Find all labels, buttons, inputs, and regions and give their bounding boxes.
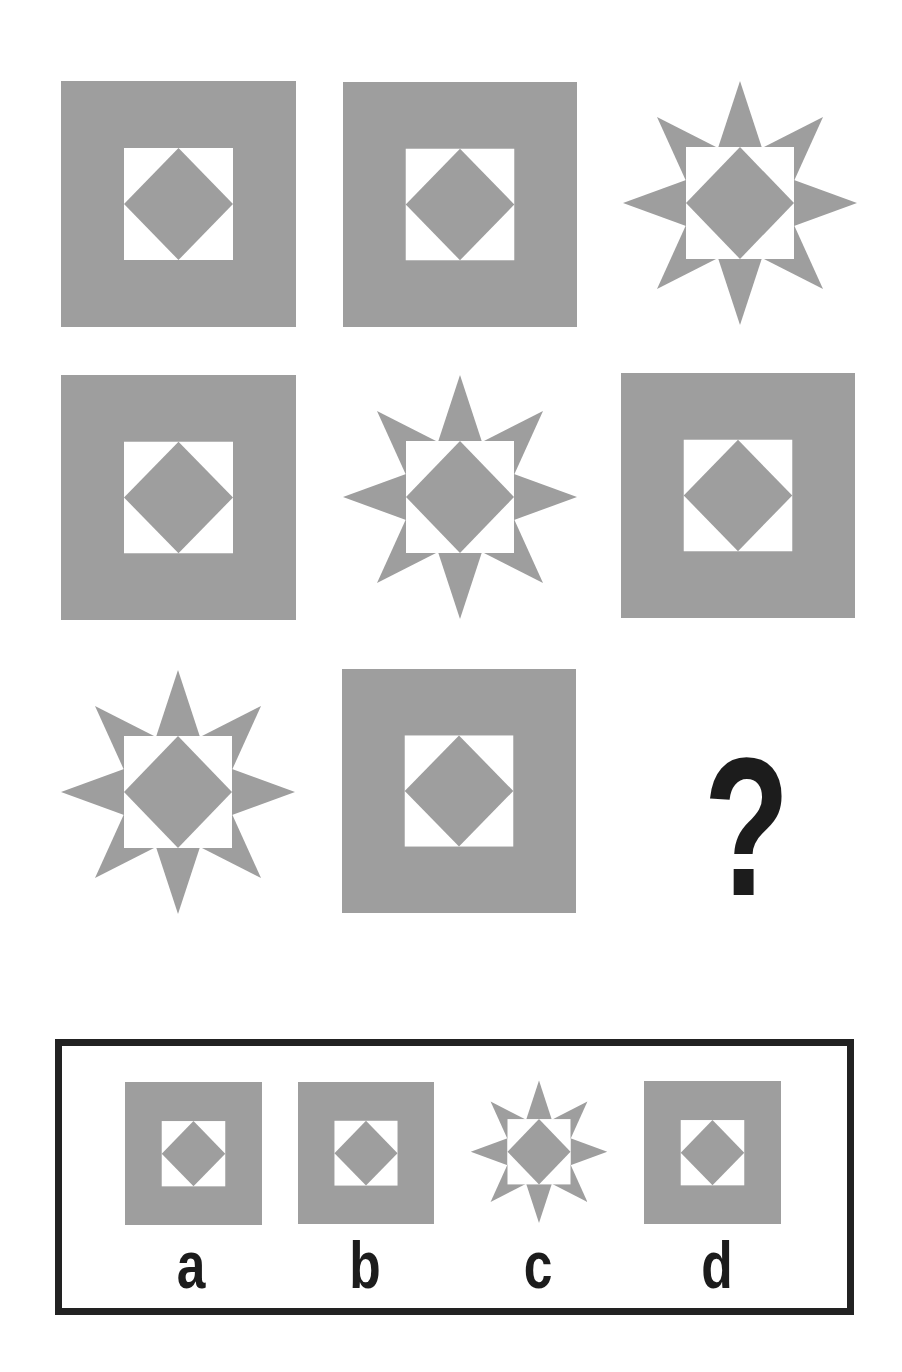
- answer-option-a-label[interactable]: a: [160, 1232, 222, 1298]
- answer-option-a-figure[interactable]: [125, 1082, 262, 1224]
- grid-cell-r3c1-star: [58, 669, 298, 915]
- framed-diamond-square-icon: [343, 82, 577, 327]
- answer-option-b-label[interactable]: b: [334, 1232, 396, 1298]
- grid-cell-r2c1-square: [61, 375, 296, 620]
- eight-point-star-icon: [469, 1080, 609, 1224]
- framed-diamond-square-icon: [298, 1082, 434, 1224]
- framed-diamond-square-icon: [342, 669, 576, 913]
- grid-cell-r1c2-square: [343, 82, 577, 327]
- grid-cell-r2c2-star: [340, 374, 580, 620]
- answer-option-b-figure[interactable]: [298, 1082, 434, 1224]
- answer-option-d-label[interactable]: d: [686, 1232, 748, 1298]
- grid-cell-r3c2-square: [342, 669, 576, 913]
- grid-cell-r2c3-square: [621, 373, 855, 618]
- eight-point-star-icon: [340, 374, 580, 620]
- answer-option-d-figure[interactable]: [644, 1081, 781, 1223]
- eight-point-star-icon: [620, 80, 860, 326]
- eight-point-star-icon: [58, 669, 298, 915]
- grid-cell-r1c3-star: [620, 80, 860, 326]
- framed-diamond-square-icon: [125, 1082, 262, 1225]
- answer-option-c-figure[interactable]: [469, 1080, 609, 1225]
- framed-diamond-square-icon: [644, 1081, 781, 1224]
- answer-option-c-label[interactable]: c: [507, 1232, 569, 1298]
- framed-diamond-square-icon: [61, 81, 296, 327]
- missing-cell-question-mark: ?: [703, 730, 772, 926]
- framed-diamond-square-icon: [61, 375, 296, 620]
- framed-diamond-square-icon: [621, 373, 855, 618]
- grid-cell-r1c1-square: [61, 81, 296, 327]
